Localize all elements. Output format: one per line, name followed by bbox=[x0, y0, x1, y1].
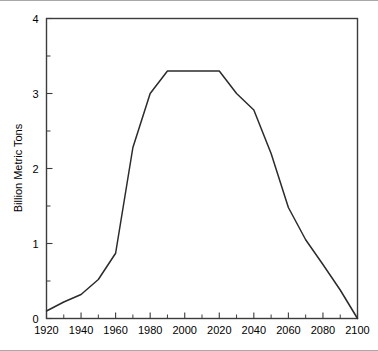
data-line-0 bbox=[47, 71, 358, 319]
chart-figure: 01234 1920194019601980200020202040206020… bbox=[0, 0, 378, 351]
x-tick-label-1960: 1960 bbox=[103, 324, 127, 336]
y-axis-major-ticks bbox=[47, 19, 53, 319]
data-series-group bbox=[47, 71, 358, 319]
x-tick-label-2060: 2060 bbox=[276, 324, 300, 336]
x-tick-label-1940: 1940 bbox=[69, 324, 93, 336]
line-chart: 01234 1920194019601980200020202040206020… bbox=[0, 0, 378, 351]
y-axis-title: Billion Metric Tons bbox=[12, 123, 24, 212]
x-tick-label-2080: 2080 bbox=[311, 324, 335, 336]
x-axis-tick-labels: 1920194019601980200020202040206020802100 bbox=[34, 324, 369, 336]
y-tick-label-3: 3 bbox=[32, 88, 38, 100]
plot-frame bbox=[47, 19, 358, 319]
y-tick-label-1: 1 bbox=[32, 238, 38, 250]
y-tick-label-2: 2 bbox=[32, 163, 38, 175]
x-tick-label-2020: 2020 bbox=[207, 324, 231, 336]
x-tick-label-2040: 2040 bbox=[242, 324, 266, 336]
x-tick-label-2000: 2000 bbox=[172, 324, 196, 336]
x-tick-label-1920: 1920 bbox=[34, 324, 58, 336]
y-tick-label-4: 4 bbox=[32, 13, 38, 25]
y-axis-tick-labels: 01234 bbox=[32, 13, 38, 325]
x-tick-label-1980: 1980 bbox=[138, 324, 162, 336]
x-tick-label-2100: 2100 bbox=[345, 324, 369, 336]
